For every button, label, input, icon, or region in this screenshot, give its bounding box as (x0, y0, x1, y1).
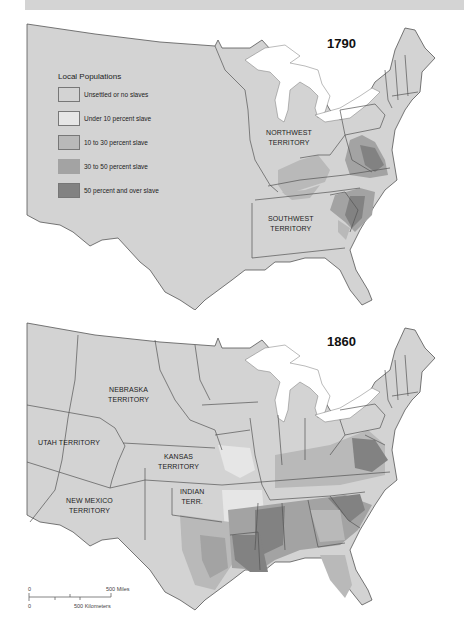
map-1790: 1790 NORTHWEST TERRITORY SOUTHWEST TERRI… (0, 0, 464, 310)
legend-item-50-plus: 50 percent and over slave (58, 182, 159, 198)
label-northwest-territory: NORTHWEST TERRITORY (266, 128, 312, 148)
label-indian-territory: INDIAN TERR. (180, 487, 204, 507)
year-label-1860: 1860 (327, 334, 356, 349)
scale-bar-lines (28, 586, 148, 614)
scale-km-zero: 0 (28, 603, 31, 609)
legend-swatch (58, 159, 80, 174)
legend-item-unsettled: Unsettled or no slaves (58, 86, 159, 102)
label-southwest-territory: SOUTHWEST TERRITORY (268, 214, 314, 234)
label-utah-territory: UTAH TERRITORY (38, 438, 100, 448)
legend-swatch (58, 183, 80, 198)
map-1860: 1860 NEBRASKA TERRITORY UTAH TERRITORY K… (0, 310, 464, 620)
label-new-mexico-territory: NEW MEXICO TERRITORY (66, 496, 113, 516)
year-label-1790: 1790 (327, 36, 356, 51)
legend-swatch (58, 87, 80, 102)
map-1860-shapes (0, 310, 464, 620)
legend-swatch (58, 135, 80, 150)
legend: Local Populations Unsettled or no slaves… (58, 72, 159, 206)
legend-item-under-10: Under 10 percent slave (58, 110, 159, 126)
legend-item-30-to-50: 30 to 50 percent slave (58, 158, 159, 174)
label-nebraska-territory: NEBRASKA TERRITORY (108, 385, 149, 405)
scale-km-label: 500 Kilometers (74, 603, 111, 609)
legend-item-10-to-30: 10 to 30 percent slave (58, 134, 159, 150)
legend-title: Local Populations (58, 72, 159, 81)
legend-swatch (58, 111, 80, 126)
label-kansas-territory: KANSAS TERRITORY (158, 452, 199, 472)
scale-bar: 0 500 Miles 0 500 Kilometers (28, 586, 148, 614)
